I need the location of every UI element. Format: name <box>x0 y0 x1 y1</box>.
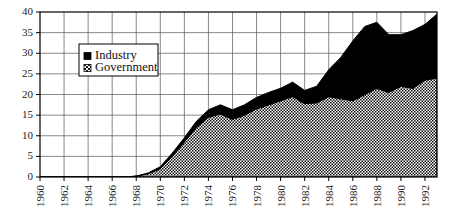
x-tick-label: 1982 <box>299 185 311 207</box>
x-tick-label: 1960 <box>34 185 46 208</box>
x-tick-label: 1966 <box>106 185 118 208</box>
chart-legend: Industry Government <box>79 44 158 76</box>
x-tick-label: 1970 <box>154 185 166 208</box>
x-tick-label: 1988 <box>371 185 383 208</box>
y-tick-label: 40 <box>22 5 34 17</box>
chart-figure: 0510152025303540 19601962196419661968197… <box>0 0 458 224</box>
y-tick-label: 30 <box>22 46 34 58</box>
x-tick-label: 1968 <box>130 185 142 208</box>
x-tick-label: 1984 <box>323 185 335 208</box>
legend-swatch-government <box>84 65 91 72</box>
x-tick-label: 1962 <box>58 185 70 207</box>
y-tick-label: 20 <box>22 88 34 100</box>
x-tick-label: 1972 <box>178 185 190 207</box>
x-tick-label: 1990 <box>395 185 407 208</box>
y-tick-label: 0 <box>28 170 34 182</box>
y-tick-label: 10 <box>22 129 34 141</box>
x-tick-label: 1974 <box>202 185 214 208</box>
y-tick-label: 35 <box>22 26 34 38</box>
x-tick-label: 1992 <box>419 185 431 207</box>
x-tick-label: 1976 <box>226 185 238 208</box>
x-tick-label: 1986 <box>347 185 359 208</box>
y-tick-label: 15 <box>22 108 34 120</box>
legend-label-government: Government <box>95 60 158 74</box>
legend-swatch-industry <box>84 53 91 60</box>
x-tick-label: 1978 <box>251 185 263 208</box>
x-tick-label: 1980 <box>275 185 287 208</box>
y-tick-label: 5 <box>28 149 34 161</box>
stacked-area-chart: 0510152025303540 19601962196419661968197… <box>0 0 458 224</box>
y-tick-label: 25 <box>22 67 34 79</box>
x-tick-label: 1964 <box>82 185 94 208</box>
